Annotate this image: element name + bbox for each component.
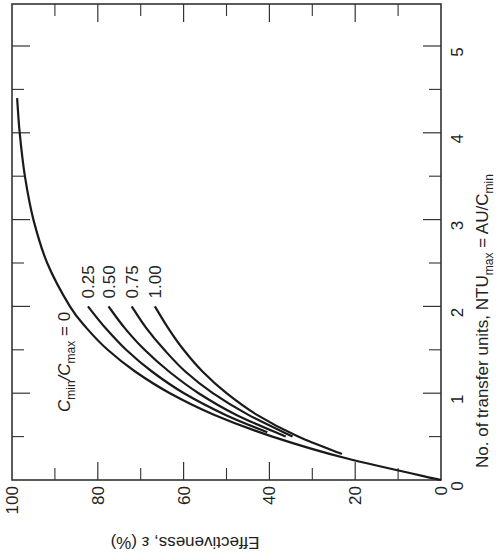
y-tick-label: 20 xyxy=(346,486,365,505)
y-axis-title: Effectiveness, ε (%) xyxy=(111,533,260,552)
x-tick-label: 3 xyxy=(448,221,467,230)
curve-label-1-00: 1.00 xyxy=(146,265,165,298)
x-tick-label: 2 xyxy=(448,308,467,317)
curve-c-ratio-0-75 xyxy=(132,306,293,436)
curve-label-c0: Cmin/Cmax = 0 xyxy=(55,312,78,412)
y-tick-label: 100 xyxy=(3,486,22,514)
y-tick-label: 40 xyxy=(260,486,279,505)
x-axis-title: No. of transfer units, NTUmax = AU/Cmin xyxy=(473,174,496,468)
curve-c-ratio-0-25 xyxy=(88,306,267,432)
tick-labels: 0204060801000123450.250.500.751.00 xyxy=(3,47,467,514)
y-tick-label: 80 xyxy=(89,486,108,505)
x-tick-label: 0 xyxy=(448,481,467,490)
x-tick-label: 1 xyxy=(448,394,467,403)
x-tick-label: 5 xyxy=(448,47,467,56)
effectiveness-ntu-chart: 0204060801000123450.250.500.751.00 Effec… xyxy=(0,0,503,559)
y-tick-label: 60 xyxy=(175,486,194,505)
x-tick-label: 4 xyxy=(448,134,467,143)
curve-label-0-25: 0.25 xyxy=(79,265,98,298)
curve-label-0-75: 0.75 xyxy=(123,265,142,298)
curve-label-0-50: 0.50 xyxy=(100,265,119,298)
curve-c-ratio-1-00 xyxy=(155,306,342,454)
